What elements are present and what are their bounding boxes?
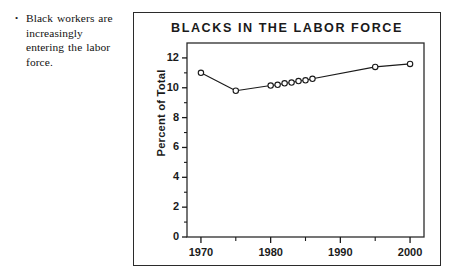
line-chart-plot [134,13,442,267]
data-point-marker [373,64,378,69]
chart-figure-frame: BLACKS IN THE LABOR FORCE Percent of Tot… [133,12,441,266]
bullet-note-row: • Black workers are increasingly enterin… [14,11,124,69]
data-point-marker [296,78,301,83]
y-tick-label: 4 [147,170,179,182]
x-tick-label: 2000 [385,246,435,258]
data-point-marker [282,81,287,86]
data-point-marker [310,76,315,81]
plot-frame [187,43,424,237]
x-tick-label: 1990 [315,246,365,258]
bullet-note-text: Black workers are increasingly entering … [26,11,124,69]
y-tick-label: 6 [147,140,179,152]
y-tick-label: 2 [147,200,179,212]
data-point-marker [303,78,308,83]
data-point-marker [268,83,273,88]
data-point-marker [289,80,294,85]
plot-axes-group [182,43,424,243]
x-tick-label: 1980 [246,246,296,258]
data-point-marker [198,70,203,75]
y-tick-label: 0 [147,230,179,242]
bullet-note: • Black workers are increasingly enterin… [14,11,124,69]
data-point-marker [233,88,238,93]
data-point-marker [275,82,280,87]
x-tick-label: 1970 [176,246,226,258]
bullet-marker-icon: • [14,11,26,26]
y-tick-label: 12 [147,51,179,63]
y-tick-label: 8 [147,111,179,123]
y-tick-label: 10 [147,81,179,93]
data-point-marker [407,61,412,66]
